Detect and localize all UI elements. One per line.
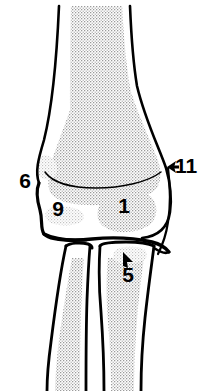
structure-label-9: 9: [52, 197, 64, 220]
structure-label-6: 6: [19, 169, 31, 192]
structure-label-1: 1: [118, 194, 130, 217]
anatomical-figure: 6 11 9 1 5: [0, 0, 200, 391]
structure-label-11: 11: [175, 154, 198, 177]
anatomy-diagram: 6 11 9 1 5: [0, 0, 200, 391]
structure-label-5: 5: [122, 263, 134, 286]
